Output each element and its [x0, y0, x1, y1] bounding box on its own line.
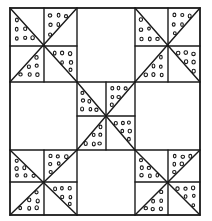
fabric-dot: [69, 196, 72, 199]
fabric-dot: [99, 125, 102, 129]
fabric-dot: [57, 13, 60, 17]
fabric-dot: [32, 174, 35, 177]
fabric-dot: [68, 186, 71, 190]
fabric-dot: [23, 166, 26, 170]
fabric-dot: [15, 18, 18, 22]
fabric-dot: [140, 37, 143, 40]
fabric-dot: [35, 206, 38, 210]
fabric-dot: [176, 187, 179, 191]
fabric-dot: [189, 154, 192, 158]
fabric-dot: [27, 65, 30, 68]
fabric-dot: [159, 65, 162, 68]
fabric-dot: [49, 170, 52, 173]
fabric-dot: [173, 32, 176, 35]
fabric-dot: [92, 133, 95, 136]
fabric-dot: [69, 61, 72, 65]
fabric-dot: [191, 186, 194, 190]
fabric-dot: [57, 23, 60, 27]
quilt-diagram: [0, 0, 212, 221]
fabric-dot: [152, 73, 155, 77]
fabric-dot: [68, 202, 71, 205]
fabric-dot: [139, 18, 142, 22]
fabric-dot: [81, 99, 84, 102]
fabric-dot: [128, 129, 131, 133]
fabric-dot: [65, 155, 69, 159]
fabric-dot: [148, 27, 151, 30]
fabric-dot: [124, 87, 127, 90]
fabric-dot: [88, 99, 91, 103]
fabric-dot: [128, 137, 131, 141]
fabric-dot: [184, 60, 187, 64]
fabric-dot: [15, 159, 18, 162]
fabric-dot: [49, 33, 52, 36]
fabric-dot: [48, 14, 52, 17]
fabric-dot: [92, 142, 95, 146]
fabric-dot: [140, 166, 143, 170]
fabric-dot: [156, 174, 159, 177]
fabric-dot: [81, 91, 84, 94]
fabric-dot: [49, 154, 52, 157]
fabric-dot: [68, 52, 71, 56]
fabric-dot: [16, 174, 19, 177]
fabric-dot: [111, 87, 114, 90]
fabric-dot: [160, 199, 163, 202]
fabric-dot: [15, 37, 18, 40]
fabric-dot: [54, 187, 57, 191]
fabric-dot: [160, 73, 163, 76]
fabric-dot: [184, 187, 187, 190]
fabric-dot: [61, 195, 64, 199]
fabric-dot: [147, 166, 150, 169]
fabric-dot: [173, 171, 176, 174]
fabric-dot: [49, 162, 52, 165]
fabric-dot: [110, 103, 113, 107]
fabric-dot: [152, 199, 155, 203]
fabric-dot: [181, 13, 184, 16]
fabric-dot: [160, 190, 163, 193]
fabric-dot: [28, 198, 31, 202]
fabric-dot: [152, 64, 155, 68]
fabric-dot: [111, 96, 114, 99]
fabric-dot: [117, 95, 121, 98]
fabric-dot: [192, 204, 195, 207]
fabric-dot: [81, 107, 84, 111]
fabric-dot: [95, 108, 98, 111]
fabric-dot: [61, 61, 64, 64]
fabric-dot: [172, 23, 175, 26]
fabric-dot: [149, 174, 152, 178]
fabric-dot: [24, 27, 27, 30]
fabric-dot: [139, 28, 143, 31]
fabric-dot: [35, 56, 38, 60]
fabric-dot: [19, 206, 22, 209]
fabric-dot: [69, 68, 72, 71]
fabric-dot: [192, 52, 195, 55]
fabric-dot: [127, 121, 130, 124]
fabric-dot: [192, 69, 195, 73]
fabric-dot: [151, 207, 154, 210]
fabric-dot: [140, 174, 143, 177]
fabric-dot: [28, 206, 31, 210]
fabric-dot: [19, 73, 22, 76]
fabric-dot: [89, 108, 92, 111]
fabric-dot: [144, 73, 148, 77]
fabric-dot: [60, 51, 63, 55]
fabric-dot: [28, 73, 31, 77]
fabric-dot: [184, 195, 187, 199]
fabric-dot: [36, 73, 39, 77]
fabric-dot: [121, 121, 124, 124]
pinwheel-diagonals: [10, 8, 200, 215]
fabric-dot: [114, 121, 117, 125]
fabric-dot: [61, 187, 64, 190]
fabric-dot: [181, 155, 185, 158]
fabric-dot: [144, 207, 147, 210]
fabric-dot: [98, 142, 101, 145]
fabric-dot: [156, 37, 159, 40]
fabric-dot: [160, 55, 163, 59]
fabric-dot: [188, 14, 191, 18]
fabric-dot: [184, 51, 188, 55]
fabric-dot: [159, 207, 162, 211]
fabric-dot: [84, 142, 87, 146]
fabric-dot: [181, 23, 184, 27]
fabric-dot: [36, 199, 39, 203]
fabric-dot: [117, 86, 120, 90]
fabric-dot: [173, 154, 176, 158]
